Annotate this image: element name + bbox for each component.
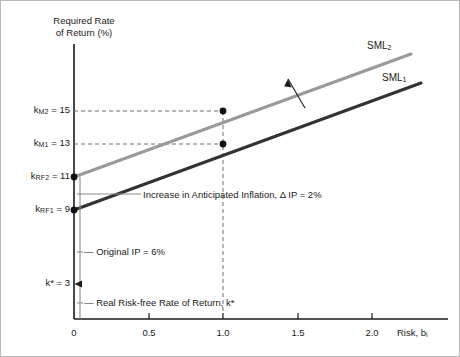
y-axis-title-line1: Required Rate	[29, 15, 139, 27]
y-tick-value-krf2: = 11	[52, 170, 70, 181]
x-tick-label-4: 2.0	[358, 327, 386, 339]
y-tick-symbol-kstar: k*	[45, 277, 53, 288]
marker-sml1-market	[220, 141, 227, 148]
series-label-sml2-subscript: 2	[388, 44, 392, 51]
annotation-original-ip-text: — Original IP = 6%	[84, 246, 165, 257]
annotation-original-ip: — Original IP = 6%	[84, 246, 165, 258]
x-axis-title-text: Risk, b	[397, 327, 426, 338]
series-label-sml1-text: SML	[382, 72, 403, 83]
x-tick-label-0: 0	[63, 327, 85, 339]
series-label-sml1: SML1	[382, 72, 407, 85]
y-tick-value-km2: = 15	[51, 104, 70, 115]
y-tick-label-krf2: kRF2 = 11	[1, 170, 70, 183]
series-label-sml1-subscript: 1	[403, 76, 407, 83]
dashed-guides-horizontal	[74, 111, 223, 144]
annotation-real-risk-free-text: — Real Risk-free Rate of Return, k*	[84, 297, 234, 308]
y-tick-value-kstar: = 3	[57, 277, 70, 288]
y-tick-subscript-km1: M1	[38, 141, 48, 148]
x-tick-label-1: 0.5	[135, 327, 163, 339]
x-tick-label-3: 1.5	[284, 327, 312, 339]
x-axis-title: Risk, bi	[397, 327, 457, 340]
marker-sml1-intercept	[71, 207, 78, 214]
y-axis-title-line2: of Return (%)	[29, 27, 139, 39]
arrow-kstar	[75, 281, 83, 288]
series-label-sml2-text: SML	[367, 40, 388, 51]
sml2-line	[74, 54, 411, 177]
bracket-original-ip	[77, 210, 83, 284]
y-tick-value-krf1: = 9	[57, 203, 70, 214]
y-tick-label-kstar: k* = 3	[1, 277, 70, 289]
annotation-real-risk-free: — Real Risk-free Rate of Return, k*	[84, 297, 234, 309]
y-tick-label-km1: kM1 = 13	[1, 137, 70, 150]
annotation-inflation-text: Increase in Anticipated Inflation, Δ IP …	[143, 189, 322, 200]
x-tick-marks	[149, 313, 372, 319]
y-tick-subscript-km2: M2	[38, 108, 48, 115]
annotation-inflation-increase: Increase in Anticipated Inflation, Δ IP …	[143, 189, 322, 201]
y-tick-label-km2: kM2 = 15	[1, 104, 70, 117]
x-tick-label-2: 1.0	[209, 327, 237, 339]
marker-sml2-intercept	[71, 174, 78, 181]
series-label-sml2: SML2	[367, 40, 392, 53]
y-tick-label-krf1: kRF1 = 9	[1, 203, 70, 216]
y-tick-subscript-krf1: RF1	[40, 207, 54, 214]
bracket-inflation-increase	[77, 177, 83, 210]
marker-sml2-market	[220, 108, 227, 115]
y-axis-title: Required Rate of Return (%)	[29, 15, 139, 38]
y-tick-value-km1: = 13	[51, 137, 70, 148]
y-tick-subscript-krf2: RF2	[35, 174, 49, 181]
bracket-real-risk-free	[77, 284, 83, 319]
chart-figure: Required Rate of Return (%) Risk, bi 0 0…	[0, 0, 460, 357]
x-axis-title-subscript: i	[426, 331, 428, 338]
